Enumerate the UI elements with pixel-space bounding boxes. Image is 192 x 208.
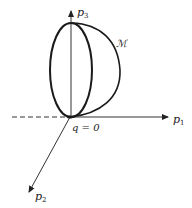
origin-point	[67, 116, 73, 119]
p1-axis-label: p1	[173, 113, 185, 127]
p3-axis-label: p3	[77, 6, 89, 20]
surface-outer-curve	[70, 23, 120, 117]
p2-axis	[29, 117, 70, 192]
p2-axis-label: p2	[35, 190, 47, 204]
phase-space-diagram: p3 ℳ p1 q = 0 p2	[0, 0, 192, 208]
origin-label: q = 0	[72, 122, 100, 133]
surface-label: ℳ	[116, 38, 128, 49]
